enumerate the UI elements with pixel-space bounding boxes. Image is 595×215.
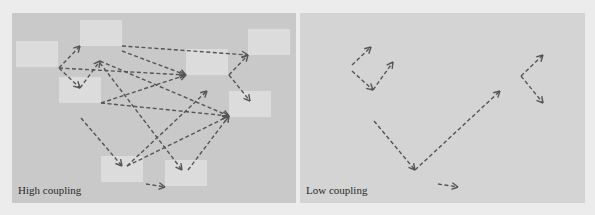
high-coupling-diagram <box>12 13 296 203</box>
low-coupling-caption: Low coupling <box>306 184 367 196</box>
dependency-arrow <box>101 74 186 103</box>
low-coupling-diagram <box>300 13 585 203</box>
dependency-arrow <box>521 76 543 103</box>
dependency-arrow <box>59 68 186 78</box>
low-coupling-panel: Low coupling <box>300 13 585 203</box>
dependency-arrow <box>188 116 229 170</box>
dependency-arrow <box>352 47 371 65</box>
high-coupling-panel: High coupling <box>12 13 296 203</box>
module-box <box>59 77 101 103</box>
high-coupling-caption: High coupling <box>18 184 81 196</box>
module-box <box>229 91 271 117</box>
dependency-arrow <box>415 91 500 170</box>
dependency-arrow <box>146 183 165 190</box>
dependency-arrow <box>122 46 248 58</box>
module-box <box>165 160 207 186</box>
dependency-arrow <box>229 55 248 75</box>
dependency-arrow <box>101 103 229 119</box>
dependency-arrow <box>352 71 373 90</box>
dependency-arrow <box>438 183 458 190</box>
module-box <box>248 29 290 55</box>
dependency-arrow <box>521 55 543 76</box>
dependency-arrow <box>59 46 80 68</box>
module-box <box>101 156 143 182</box>
dependency-arrow <box>374 121 415 170</box>
dependency-arrow <box>127 91 207 166</box>
module-box <box>80 20 122 46</box>
module-box <box>16 41 58 67</box>
dependency-arrow <box>373 62 393 90</box>
